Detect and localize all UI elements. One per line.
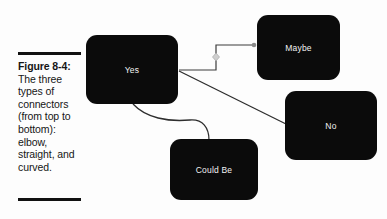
node-could-be-label: Could Be bbox=[196, 165, 233, 175]
connector-elbow[interactable] bbox=[179, 43, 256, 70]
diagram-canvas[interactable]: Yes Maybe No Could Be bbox=[0, 0, 387, 219]
node-maybe-label: Maybe bbox=[285, 43, 312, 53]
figure-page: Figure 8-4: The three types of connector… bbox=[0, 0, 387, 219]
elbow-endpoint-handle-icon[interactable] bbox=[252, 43, 257, 48]
node-yes-label: Yes bbox=[125, 65, 139, 75]
node-maybe[interactable]: Maybe bbox=[257, 15, 340, 80]
node-yes[interactable]: Yes bbox=[86, 35, 178, 104]
node-could-be[interactable]: Could Be bbox=[170, 139, 258, 200]
node-no-label: No bbox=[325, 121, 336, 131]
connector-curved[interactable] bbox=[133, 104, 209, 140]
curved-path[interactable] bbox=[133, 104, 209, 140]
node-no[interactable]: No bbox=[285, 91, 377, 160]
elbow-midpoint-handle-icon[interactable] bbox=[213, 53, 220, 61]
